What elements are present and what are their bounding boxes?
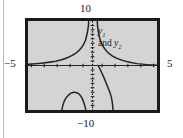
y-min-label: −10 (77, 118, 94, 129)
plot-svg (28, 21, 157, 110)
curve-annotation-y2-subscript: 2 (118, 43, 121, 50)
x-min-label: −5 (4, 58, 16, 69)
curve-left-upper-branch (28, 21, 89, 64)
y-max-label: 10 (80, 3, 91, 14)
figure-container: 10 −10 −5 5 y1 and y2 (0, 0, 183, 138)
curve-right-lower-branch (98, 66, 113, 111)
curve-annotation: y1 and y2 (98, 26, 122, 51)
calculator-screen (25, 18, 160, 113)
curve-annotation-y1-subscript: 1 (102, 31, 105, 38)
page-margin-rule (3, 0, 4, 138)
curve-annotation-line2: and y2 (98, 38, 122, 50)
curve-annotation-conjunction: and (98, 38, 114, 48)
curve-left-lower-hump (62, 92, 86, 110)
x-max-label: 5 (167, 58, 173, 69)
curve-annotation-line1: y1 (98, 26, 122, 38)
